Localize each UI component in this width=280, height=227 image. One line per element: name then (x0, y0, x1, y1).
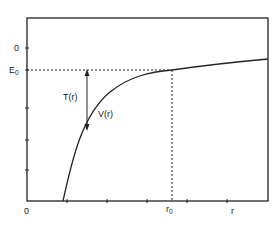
r-axis-label: r (231, 206, 234, 216)
arrow-down-icon (85, 124, 90, 131)
origin-label: 0 (24, 206, 29, 216)
potential-curve (63, 59, 268, 201)
plot-frame (27, 18, 268, 201)
potential-label: V(r) (98, 109, 113, 119)
e0-label: E0 (9, 65, 19, 76)
potential-diagram: 0 E0 T(r) V(r) 0 r0 r (0, 0, 280, 227)
kinetic-label: T(r) (63, 92, 78, 102)
zero-energy-label: 0 (14, 43, 19, 53)
r0-label: r0 (166, 204, 173, 215)
